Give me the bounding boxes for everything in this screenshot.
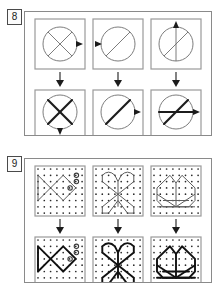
- p9-top-left[interactable]: [35, 166, 85, 216]
- p9-top-middle[interactable]: [93, 166, 143, 216]
- p8-bottom-middle[interactable]: [93, 90, 143, 135]
- p9-arrow-3: [172, 219, 180, 234]
- p9-arrow-1: [56, 219, 64, 234]
- p8-top-right[interactable]: [151, 19, 201, 69]
- p9-bottom-left[interactable]: [35, 237, 85, 282]
- puzzle-8-frame: [24, 11, 212, 136]
- puzzle-8: 8: [0, 0, 221, 147]
- puzzle-9-canvas: [25, 159, 211, 282]
- p8-arrow-3: [172, 72, 180, 87]
- puzzle-9: 9: [0, 147, 221, 294]
- p8-bottom-right[interactable]: [151, 90, 201, 135]
- puzzle-number-9: 9: [7, 156, 22, 172]
- puzzle-9-frame: [24, 158, 212, 283]
- p8-bottom-left[interactable]: [35, 90, 85, 135]
- puzzle-8-canvas: [25, 12, 211, 135]
- p9-bottom-middle[interactable]: [93, 237, 143, 282]
- puzzle-number-8: 8: [7, 9, 22, 25]
- p8-arrow-2: [114, 72, 122, 87]
- p9-top-right[interactable]: [151, 166, 201, 216]
- p8-arrow-1: [56, 72, 64, 87]
- p8-top-middle[interactable]: [93, 19, 143, 69]
- p9-arrow-2: [114, 219, 122, 234]
- p8-top-left[interactable]: [35, 19, 85, 69]
- p9-bottom-right[interactable]: [151, 237, 201, 282]
